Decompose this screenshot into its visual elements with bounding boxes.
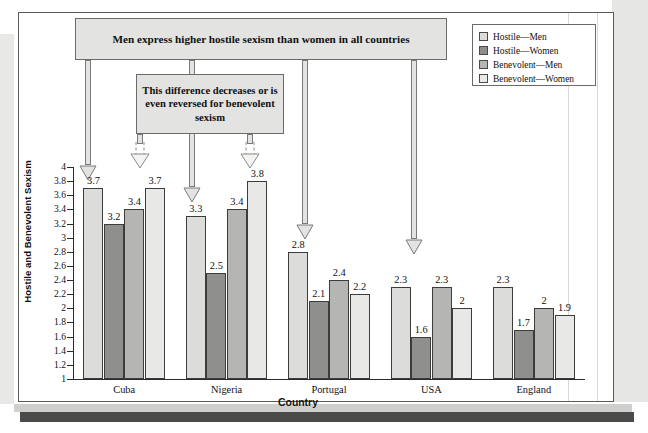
bar: [309, 301, 329, 379]
bar: [411, 337, 431, 379]
y-tick-mark: [67, 322, 73, 323]
bar: [534, 308, 554, 379]
scan-edge-right: [612, 0, 648, 402]
bar: [555, 315, 575, 379]
y-tick-mark: [67, 379, 73, 380]
x-group-label: Cuba: [73, 384, 175, 395]
bar-value-label: 2.8: [283, 239, 313, 250]
connector-line: [85, 60, 91, 165]
bar: [350, 294, 370, 379]
bar-value-label: 3.7: [140, 175, 170, 186]
scan-line-2: [597, 13, 598, 401]
y-tick-label: 1.2: [4, 359, 66, 370]
callout-box-top: Men express higher hostile sexism than w…: [75, 18, 447, 60]
arrow-dashed: [130, 142, 150, 170]
y-tick-label: 3.6: [4, 189, 66, 200]
legend-item: Benevolent—Men: [479, 58, 589, 71]
bar: [452, 308, 472, 379]
x-group-label: USA: [380, 384, 482, 395]
y-axis-title: Hostile and Benevolent Sexism: [22, 132, 33, 332]
bar: [493, 287, 513, 379]
bar-value-label: 2.3: [386, 274, 416, 285]
y-tick-mark: [67, 238, 73, 239]
legend: Hostile—MenHostile—WomenBenevolent—MenBe…: [472, 24, 596, 86]
y-tick-mark: [67, 308, 73, 309]
y-tick-label: 2.4: [4, 274, 66, 285]
scan-edge-bottom-dark: [20, 412, 634, 422]
y-tick-label: 3.4: [4, 203, 66, 214]
callout-box-middle: This difference decreases or is even rev…: [136, 74, 284, 134]
y-tick-label: 1.6: [4, 331, 66, 342]
x-axis-title: Country: [0, 397, 596, 408]
bar-value-label: 2.2: [345, 281, 375, 292]
bar-value-label: 2: [447, 295, 477, 306]
scan-edge-bottom-white: [22, 422, 634, 433]
y-tick-mark: [67, 294, 73, 295]
arrow-dashed: [240, 142, 260, 170]
bar: [288, 252, 308, 379]
y-tick-mark: [67, 252, 73, 253]
x-group-label: Portugal: [278, 384, 380, 395]
bar: [247, 181, 267, 379]
bar-value-label: 2.3: [488, 274, 518, 285]
y-tick-label: 3.2: [4, 218, 66, 229]
y-tick-label: 1: [4, 373, 66, 384]
bar-value-label: 3.3: [181, 203, 211, 214]
y-tick-mark: [67, 365, 73, 366]
y-tick-mark: [67, 224, 73, 225]
y-tick-label: 1.8: [4, 316, 66, 327]
bar-value-label: 1.9: [550, 302, 580, 313]
bar-value-label: 2.4: [324, 267, 354, 278]
y-tick-label: 2.2: [4, 288, 66, 299]
bar: [514, 330, 534, 379]
y-axis-title-wrap: Hostile and Benevolent Sexism: [0, 0, 1, 1]
y-tick-mark: [67, 195, 73, 196]
legend-swatch: [479, 46, 488, 55]
bar: [227, 209, 247, 379]
legend-label: Hostile—Men: [493, 32, 547, 42]
legend-item: Hostile—Men: [479, 30, 589, 43]
bar-value-label: 3.7: [78, 175, 108, 186]
bar: [206, 273, 226, 379]
y-axis-tick-labels: 43.83.63.43.232.82.62.42.221.81.61.41.21: [0, 160, 66, 390]
bar: [186, 216, 206, 379]
bar-value-label: 3.8: [242, 168, 272, 179]
legend-swatch: [479, 60, 488, 69]
legend-swatch: [479, 32, 488, 41]
legend-swatch: [479, 74, 488, 83]
y-tick-label: 3.8: [4, 175, 66, 186]
bar: [145, 188, 165, 379]
y-tick-mark: [67, 266, 73, 267]
y-tick-mark: [67, 351, 73, 352]
y-tick-label: 2: [4, 302, 66, 313]
y-tick-label: 2.8: [4, 246, 66, 257]
y-tick-label: 2.6: [4, 260, 66, 271]
bar-value-label: 2.3: [427, 274, 457, 285]
legend-item: Benevolent—Women: [479, 72, 589, 85]
scanned-page: Men express higher hostile sexism than w…: [0, 0, 648, 433]
legend-label: Hostile—Women: [493, 46, 558, 56]
y-tick-label: 1.4: [4, 345, 66, 356]
y-tick-mark: [67, 209, 73, 210]
y-tick-mark: [67, 181, 73, 182]
y-tick-mark: [67, 280, 73, 281]
plot-area: 3.73.23.43.73.32.53.43.82.82.12.42.22.31…: [73, 167, 585, 379]
bar: [124, 209, 144, 379]
x-group-label: England: [483, 384, 585, 395]
bar: [104, 224, 124, 379]
x-group-label: Nigeria: [175, 384, 277, 395]
legend-label: Benevolent—Women: [493, 74, 574, 84]
y-tick-mark: [67, 337, 73, 338]
y-tick-label: 3: [4, 232, 66, 243]
y-tick-label: 4: [4, 161, 66, 172]
legend-item: Hostile—Women: [479, 44, 589, 57]
legend-label: Benevolent—Men: [493, 60, 562, 70]
bar: [329, 280, 349, 379]
y-tick-mark: [67, 167, 73, 168]
